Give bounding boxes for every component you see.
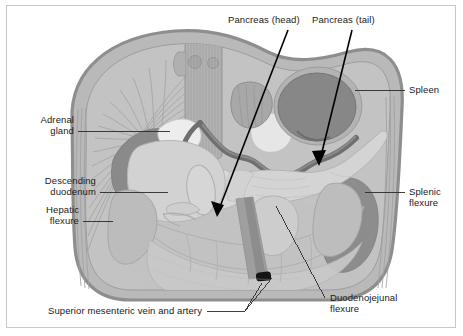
label-descending-duodenum-line2: duodenum (2, 186, 96, 198)
label-pancreas-head: Pancreas (head) (228, 14, 300, 26)
spinous-process (174, 52, 187, 76)
label-splenic-flexure-line1: Splenic (409, 186, 441, 198)
label-spleen: Spleen (409, 84, 439, 96)
anatomy-figure: Pancreas (head) Pancreas (tail) Spleen A… (0, 0, 463, 336)
anatomy-illustration (0, 0, 463, 336)
label-duodenojejunal-flexure-line2: flexure (330, 303, 359, 315)
label-duodenojejunal-flexure-line1: Duodenojejunal (330, 292, 397, 304)
label-descending-duodenum-line1: Descending (2, 175, 96, 187)
label-adrenal-gland-line2: gland (4, 125, 74, 137)
label-adrenal-gland-line1: Adrenal (4, 114, 74, 126)
smv-sma-cross-section (256, 271, 272, 282)
label-superior-mesenteric: Superior mesenteric vein and artery (16, 305, 202, 317)
label-hepatic-flexure-line2: flexure (4, 215, 79, 227)
spleen-group (274, 67, 362, 145)
label-pancreas-tail: Pancreas (tail) (312, 14, 375, 26)
label-hepatic-flexure-line1: Hepatic (4, 204, 79, 216)
spleen (278, 73, 356, 141)
label-splenic-flexure-line2: flexure (409, 197, 438, 209)
